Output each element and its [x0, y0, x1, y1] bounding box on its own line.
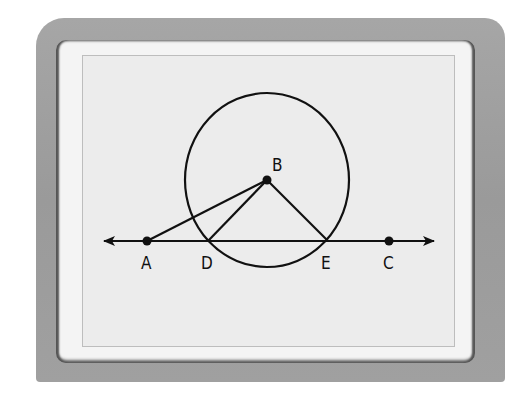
geometry-figure: A B C D E: [0, 0, 528, 399]
point-a: [143, 237, 152, 246]
label-e: E: [321, 253, 331, 273]
label-c: C: [383, 253, 394, 273]
point-c: [385, 237, 394, 246]
label-b: B: [272, 155, 283, 175]
segment-be: [267, 180, 328, 241]
label-a: A: [141, 253, 152, 273]
segment-ba: [147, 180, 267, 241]
point-b: [263, 176, 272, 185]
segment-bd: [208, 180, 267, 241]
label-d: D: [201, 253, 213, 273]
